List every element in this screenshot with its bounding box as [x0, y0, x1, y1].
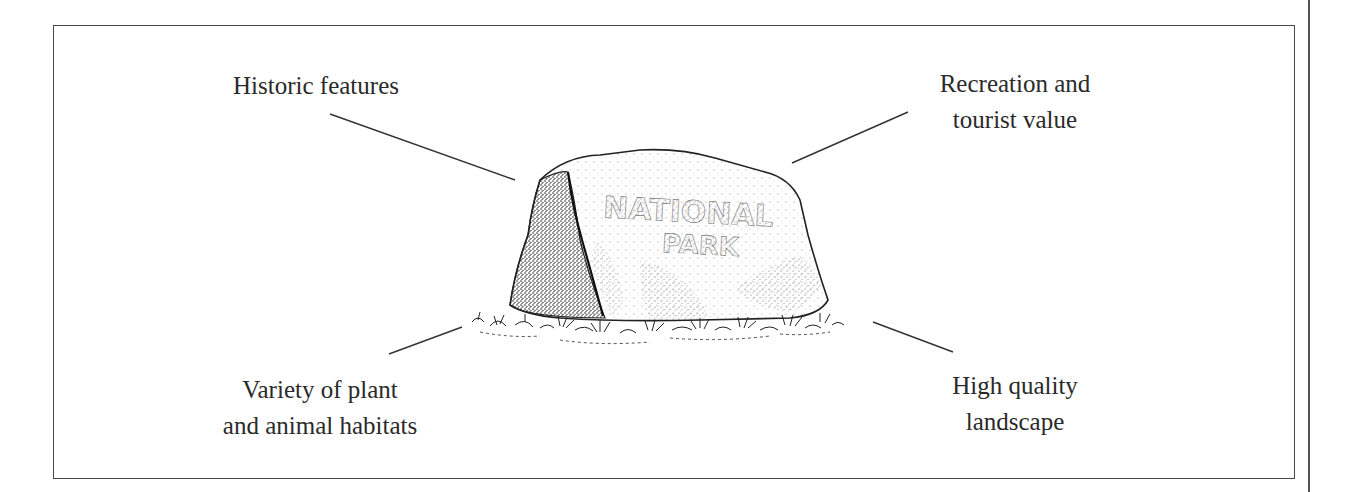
label-line: and animal habitats [180, 408, 460, 444]
sign-text-line-2: PARK [661, 228, 740, 262]
label-line: landscape [900, 404, 1130, 440]
label-line: Historic features [200, 68, 432, 104]
label-line: tourist value [900, 102, 1130, 138]
label-recreation-tourist-value: Recreation and tourist value [900, 66, 1130, 138]
label-historic-features: Historic features [200, 68, 432, 104]
leader-line-historic [330, 114, 515, 180]
leader-line-habitats [389, 327, 462, 354]
leader-line-recreation [792, 112, 908, 163]
label-plant-animal-habitats: Variety of plant and animal habitats [180, 372, 460, 444]
national-park-boulder-illustration: NATIONAL PARK [472, 150, 844, 344]
leader-line-landscape [873, 322, 953, 352]
label-line: Variety of plant [180, 372, 460, 408]
label-line: Recreation and [900, 66, 1130, 102]
label-line: High quality [900, 368, 1130, 404]
label-high-quality-landscape: High quality landscape [900, 368, 1130, 440]
